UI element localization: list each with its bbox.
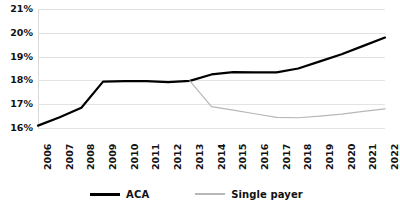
x-tick-label: 2014 — [216, 130, 227, 170]
legend-item-aca[interactable]: ACA — [90, 189, 149, 200]
series-line-single-payer — [190, 81, 385, 118]
y-axis-labels: 16%17%18%19%20%21% — [0, 0, 36, 140]
legend-swatch-single-payer-icon — [195, 193, 225, 195]
legend-swatch-aca-icon — [90, 193, 120, 196]
legend-label-aca: ACA — [126, 189, 149, 200]
x-tick-label: 2016 — [259, 130, 270, 170]
x-tick-label: 2009 — [107, 130, 118, 170]
legend-label-single-payer: Single payer — [231, 189, 303, 200]
x-tick-label: 2006 — [42, 130, 53, 170]
chart-legend: ACA Single payer — [0, 182, 393, 206]
x-tick-label: 2017 — [281, 130, 292, 170]
y-tick-label: 20% — [0, 28, 33, 38]
y-tick-label: 18% — [0, 75, 33, 85]
y-tick-label: 16% — [0, 123, 33, 133]
x-tick-label: 2007 — [64, 130, 75, 170]
x-tick-label: 2018 — [302, 130, 313, 170]
x-tick-label: 2012 — [172, 130, 183, 170]
x-tick-label: 2013 — [194, 130, 205, 170]
x-axis-labels: 2006200720082009201020112012201320142015… — [38, 130, 385, 174]
x-tick-label: 2019 — [324, 130, 335, 170]
series-lines — [38, 9, 385, 128]
gridline-16 — [38, 128, 385, 129]
y-tick-label: 21% — [0, 4, 33, 14]
x-tick-label: 2015 — [237, 130, 248, 170]
series-line-aca — [38, 38, 385, 126]
x-tick-label: 2022 — [389, 130, 400, 170]
legend-item-single-payer[interactable]: Single payer — [195, 189, 303, 200]
y-tick-label: 17% — [0, 99, 33, 109]
y-tick-label: 19% — [0, 52, 33, 62]
x-tick-label: 2021 — [367, 130, 378, 170]
plot-area — [38, 9, 385, 128]
x-tick-label: 2011 — [150, 130, 161, 170]
x-tick-label: 2010 — [129, 130, 140, 170]
x-tick-label: 2020 — [346, 130, 357, 170]
x-tick-label: 2008 — [85, 130, 96, 170]
